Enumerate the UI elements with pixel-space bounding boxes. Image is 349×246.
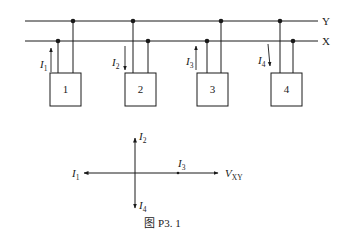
circuit-diagram: Y X 1 I1 2 I2 3 I3 4: [0, 0, 349, 246]
junction-dot: [56, 39, 61, 44]
junction-dot: [146, 39, 151, 44]
phasor-label-i1: I1: [71, 167, 80, 182]
bus-x: X: [25, 35, 330, 47]
unit-2-label: 2: [138, 83, 144, 95]
phasor-label-i4: I4: [138, 199, 147, 214]
i3-phasor-point: [177, 172, 180, 175]
unit-1: 1 I1: [39, 19, 81, 106]
current-arrow-down-icon: [268, 44, 270, 66]
unit-4-label: 4: [284, 83, 290, 95]
current-label-i1: I1: [39, 58, 48, 73]
phasor-label-i3: I3: [177, 157, 186, 172]
junction-dot: [219, 19, 224, 24]
bus-y-label: Y: [322, 15, 330, 27]
junction-dot: [291, 39, 296, 44]
current-label-i4: I4: [257, 54, 266, 69]
unit-3-label: 3: [210, 83, 216, 95]
figure-caption-text: 图 P3. 1: [144, 217, 180, 229]
junction-dot: [205, 39, 210, 44]
current-label-i2: I2: [111, 56, 120, 71]
figure-caption: 图 P3. 1: [0, 214, 349, 230]
junction-dot: [278, 19, 283, 24]
unit-3: 3 I3: [185, 19, 228, 106]
unit-4: 4 I4: [257, 19, 302, 106]
unit-2: 2 I2: [111, 19, 156, 106]
junction-dot: [71, 19, 76, 24]
phasor-label-vxy: VXY: [225, 167, 243, 182]
unit-1-label: 1: [63, 83, 69, 95]
phasor-label-i2: I2: [138, 130, 147, 145]
phasor-diagram: I1 I2 I3 I4 VXY: [71, 130, 243, 214]
junction-dot: [131, 19, 136, 24]
bus-x-label: X: [322, 35, 330, 47]
current-label-i3: I3: [185, 55, 194, 70]
